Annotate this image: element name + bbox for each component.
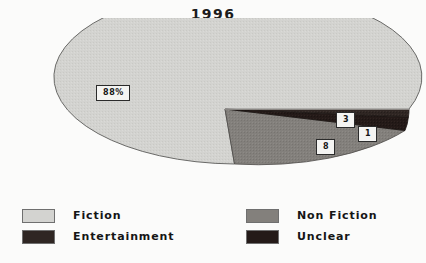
legend-swatch-entertainment [22, 230, 55, 244]
legend-swatch-non-fiction [246, 209, 279, 223]
legend-item-unclear: Unclear [246, 227, 378, 246]
pie-chart-svg [0, 18, 426, 200]
legend-label-unclear: Unclear [297, 230, 351, 243]
pie-chart-figure: 1996 [0, 0, 426, 263]
data-label-unclear: 1 [358, 126, 377, 142]
legend-column-right: Non Fiction Unclear [246, 206, 378, 248]
data-label-fiction: 88% [96, 85, 130, 101]
legend-swatch-fiction [22, 209, 55, 223]
chart-legend: Fiction Entertainment Non Fiction Unclea… [0, 206, 426, 256]
legend-label-entertainment: Entertainment [73, 230, 174, 243]
legend-item-fiction: Fiction [22, 206, 174, 225]
data-label-non-fiction: 8 [316, 139, 335, 155]
legend-label-non-fiction: Non Fiction [297, 209, 378, 222]
legend-item-non-fiction: Non Fiction [246, 206, 378, 225]
legend-label-fiction: Fiction [73, 209, 122, 222]
data-label-entertainment: 3 [336, 112, 355, 128]
legend-item-entertainment: Entertainment [22, 227, 174, 246]
pie-chart-plot-area [0, 18, 426, 200]
legend-swatch-unclear [246, 230, 279, 244]
legend-column-left: Fiction Entertainment [22, 206, 174, 248]
